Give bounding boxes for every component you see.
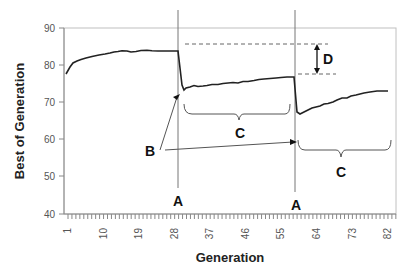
- y-tick-label: 90: [44, 23, 56, 34]
- x-tick-label: 1: [62, 228, 73, 234]
- label-b: B: [145, 143, 155, 159]
- y-tick-label: 80: [44, 60, 56, 71]
- x-tick-label: 19: [133, 228, 144, 240]
- label-d: D: [323, 51, 333, 67]
- y-axis-title: Best of Generation: [12, 63, 27, 179]
- x-tick-label: 28: [169, 228, 180, 240]
- label-c1: C: [235, 125, 245, 141]
- label-a1: A: [173, 193, 183, 209]
- y-tick-label: 60: [44, 134, 56, 145]
- x-tick-label: 55: [275, 228, 286, 240]
- chart-canvas: 90 80 70 60 50 40 1 10 19 28 37 46 55 64…: [0, 0, 408, 275]
- x-tick-label: 64: [311, 228, 322, 240]
- x-tick-labels: 1 10 19 28 37 46 55 64 73 82: [62, 228, 393, 240]
- y-tick-label: 70: [44, 97, 56, 108]
- x-tick-label: 46: [240, 228, 251, 240]
- x-axis-title: Generation: [196, 250, 265, 265]
- x-tick-label: 73: [347, 228, 358, 240]
- x-tick-label: 37: [204, 228, 215, 240]
- x-ticks: [68, 214, 396, 219]
- x-tick-label: 10: [98, 228, 109, 240]
- label-c2: C: [336, 164, 346, 180]
- plot-area: [64, 28, 396, 214]
- label-a2: A: [291, 197, 301, 213]
- y-ticks: [59, 28, 64, 214]
- y-tick-label: 50: [44, 171, 56, 182]
- y-tick-label: 40: [44, 209, 56, 220]
- x-tick-label: 82: [382, 228, 393, 240]
- y-tick-labels: 90 80 70 60 50 40: [44, 23, 56, 220]
